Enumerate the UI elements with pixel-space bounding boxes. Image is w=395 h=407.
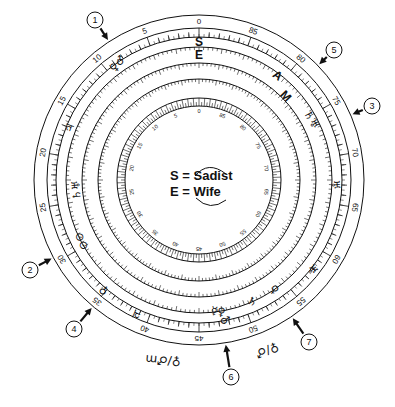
callout-number: 2 bbox=[27, 265, 32, 275]
inner-dial-label: 20 bbox=[128, 165, 135, 172]
planet-glyph-icon: ♃ bbox=[130, 306, 144, 322]
legend-value: Wife bbox=[194, 184, 221, 199]
outer-scale-label: 25 bbox=[38, 202, 49, 213]
arrow-icon bbox=[296, 322, 304, 333]
legend-key: E bbox=[170, 184, 179, 199]
arrowhead-icon bbox=[223, 345, 230, 352]
planet-glyph-icon: ⊙⊙ bbox=[72, 230, 92, 252]
callout-number: 4 bbox=[71, 324, 76, 334]
inner-dial-label: 60 bbox=[254, 210, 262, 218]
planet-glyph-icon: ♀ bbox=[96, 283, 111, 298]
inner-dial-label: 50 bbox=[219, 241, 227, 249]
outer-scale-label: 70 bbox=[350, 147, 361, 158]
planet-glyph-icon: ♀♂ bbox=[107, 53, 128, 75]
inner-dial-label: 85 bbox=[219, 112, 227, 120]
callout-4: 4 bbox=[66, 308, 92, 337]
inner-dial-label: 5 bbox=[173, 112, 178, 119]
inner-dial-label: 30 bbox=[136, 210, 144, 218]
planet-glyph-icon: ♄♅ bbox=[69, 180, 84, 201]
outer-scale-label: 65 bbox=[350, 202, 361, 213]
arrow-icon bbox=[227, 350, 230, 367]
planet-glyph-icon: ♀ bbox=[267, 282, 281, 297]
inner-dial-label: 10 bbox=[151, 123, 160, 132]
inner-dial-label: 40 bbox=[172, 241, 180, 249]
inner-dial-label: 75 bbox=[254, 142, 262, 150]
legend: S = Sadist E = Wife bbox=[170, 168, 250, 200]
callout-number: 3 bbox=[369, 101, 374, 111]
inner-dial-label: 80 bbox=[239, 123, 248, 132]
outer-scale-label: 40 bbox=[139, 323, 151, 335]
outer-scale-label: 45 bbox=[194, 334, 203, 343]
callout-5: 5 bbox=[319, 42, 342, 64]
inner-dial-label: 65 bbox=[263, 188, 270, 195]
inner-dial-label: 55 bbox=[239, 228, 248, 237]
planet-glyph-icon: ♂ bbox=[219, 313, 231, 328]
ring-letter-s: S bbox=[195, 35, 203, 49]
legend-eq: = bbox=[182, 184, 190, 199]
callout-number: 6 bbox=[228, 372, 233, 382]
outer-scale-label: 5 bbox=[141, 26, 149, 36]
outside-glyph-icon: ♀/♂m bbox=[145, 352, 181, 369]
inner-dial-label: 45 bbox=[196, 246, 202, 252]
callout-6: 6 bbox=[223, 345, 239, 385]
ring-letters-group: SEAM bbox=[195, 35, 294, 104]
ring-letter-e: E bbox=[195, 48, 203, 62]
callout-3: 3 bbox=[353, 98, 380, 115]
callout-7: 7 bbox=[293, 318, 317, 350]
legend-row-e: E = Wife bbox=[170, 184, 250, 200]
concentric-scale-diagram: 0510152025303540455055606570758085051015… bbox=[0, 0, 395, 407]
outer-scale-label: 20 bbox=[38, 147, 49, 158]
planet-glyph-icon: ♄ bbox=[245, 294, 259, 310]
callout-1: 1 bbox=[87, 12, 108, 40]
callout-number: 5 bbox=[331, 45, 336, 55]
planet-glyph-icon: ♅ bbox=[329, 179, 343, 190]
inner-dial-label: 0 bbox=[197, 108, 200, 114]
callout-number: 7 bbox=[306, 337, 311, 347]
ring-letter-m: M bbox=[277, 88, 294, 105]
legend-key: S bbox=[170, 168, 179, 183]
outer-scale-label: 50 bbox=[247, 323, 259, 335]
legend-value: Sadist bbox=[194, 168, 233, 183]
legend-eq: = bbox=[182, 168, 190, 183]
inner-dial-label: 15 bbox=[136, 142, 144, 150]
inner-dial-label: 70 bbox=[263, 165, 270, 172]
inner-dial-label: 25 bbox=[128, 188, 135, 195]
ring-letter-a: A bbox=[270, 67, 286, 84]
outer-scale-label: 0 bbox=[197, 17, 202, 26]
callout-2: 2 bbox=[22, 258, 52, 278]
legend-row-s: S = Sadist bbox=[170, 168, 250, 184]
callout-number: 1 bbox=[92, 15, 97, 25]
outside-glyph-icon: ♀/♂ bbox=[254, 340, 281, 361]
outer-scale-label: 85 bbox=[247, 25, 259, 37]
inner-dial-label: 35 bbox=[151, 228, 160, 237]
